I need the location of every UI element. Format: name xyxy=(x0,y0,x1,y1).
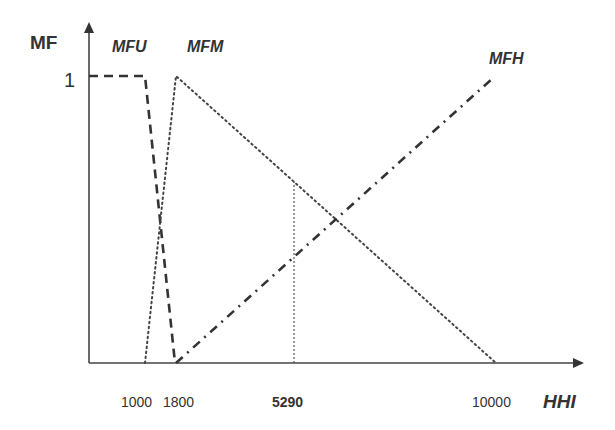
series-label-mfu: MFU xyxy=(112,38,147,55)
y-axis-label: MF xyxy=(30,32,57,53)
membership-function-chart: MF 1 MFU MFM MFH 1000 1800 5290 10000 HH… xyxy=(0,0,615,430)
x-axis-arrow-icon xyxy=(573,358,584,368)
x-tick-5290: 5290 xyxy=(272,394,303,410)
x-tick-1800: 1800 xyxy=(163,394,194,410)
series-mfu-line xyxy=(89,76,175,363)
y-tick-1: 1 xyxy=(64,69,75,91)
x-axis-label: HHI xyxy=(543,391,576,412)
axes xyxy=(89,30,576,363)
series-label-mfm: MFM xyxy=(187,38,224,55)
series-mfh-line xyxy=(176,78,493,363)
y-axis-arrow-icon xyxy=(84,22,94,33)
series-label-mfh: MFH xyxy=(489,50,524,67)
x-tick-10000: 10000 xyxy=(472,394,511,410)
x-tick-1000: 1000 xyxy=(121,394,152,410)
series-mfm-line xyxy=(145,76,496,363)
